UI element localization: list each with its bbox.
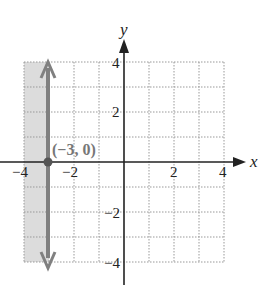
y-tick-label: 2 xyxy=(112,104,120,120)
point-label: (−3, 0) xyxy=(52,141,96,159)
point-marker xyxy=(44,158,53,167)
x-axis-label: x xyxy=(249,152,258,171)
x-tick-label: −2 xyxy=(62,164,78,180)
y-tick-label: 4 xyxy=(112,55,120,71)
y-tick-label: −4 xyxy=(104,255,120,271)
y-axis-label: y xyxy=(118,20,128,39)
coordinate-graph: x y −4 −2 2 4 4 2 −2 −4 (−3, 0) xyxy=(0,0,259,285)
x-tick-label: 4 xyxy=(219,164,227,180)
x-tick-label: −4 xyxy=(12,164,28,180)
y-tick-label: −2 xyxy=(104,205,120,221)
x-tick-label: 2 xyxy=(170,164,178,180)
